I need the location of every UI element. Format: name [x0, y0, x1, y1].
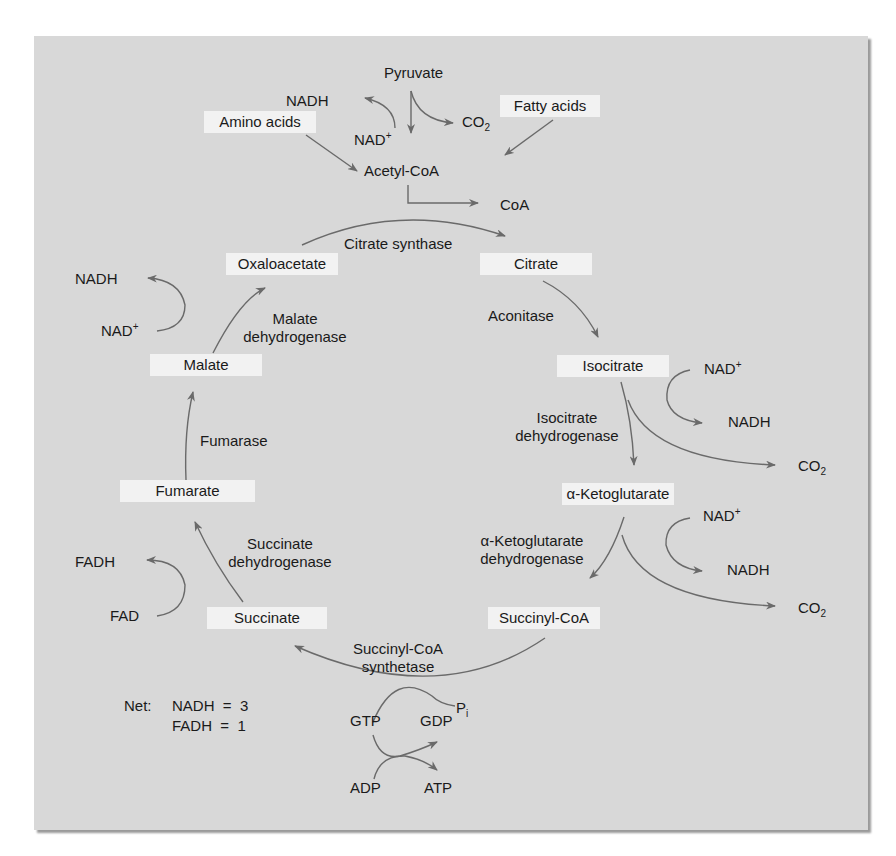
- label-gdp: GDP: [420, 712, 453, 730]
- label-co2-isocitrate: CO2: [798, 457, 826, 475]
- label-adp: ADP: [350, 779, 381, 797]
- label-citrate-synthase: Citrate synthase: [344, 235, 452, 253]
- label-fumarase: Fumarase: [200, 432, 268, 450]
- label-pyruvate: Pyruvate: [384, 64, 443, 82]
- label-nad-top: NAD+: [354, 131, 392, 149]
- box-succinyl-coa: Succinyl-CoA: [488, 607, 600, 629]
- box-fumarate: Fumarate: [120, 480, 255, 502]
- label-nad-isocitrate: NAD+: [704, 360, 742, 378]
- arrow-fattyacids: [505, 120, 553, 155]
- label-aconitase: Aconitase: [488, 307, 554, 325]
- box-fatty-acids: Fatty acids: [500, 95, 600, 117]
- amino-acids-text: Amino acids: [219, 113, 301, 130]
- arrow-pyruvate-co2: [411, 91, 453, 123]
- label-atp: ATP: [424, 779, 452, 797]
- label-nadh-top: NADH: [286, 92, 329, 110]
- box-isocitrate: Isocitrate: [557, 355, 669, 377]
- label-net-fadh: FADH = 1: [172, 717, 246, 735]
- arrow-gdp-gtp-bottom: [373, 735, 437, 757]
- arrow-nad-nadh-top: [365, 98, 395, 128]
- label-co2-akg: CO2: [798, 599, 826, 617]
- label-succinyl-coa-synthetase: Succinyl-CoAsynthetase: [338, 640, 458, 676]
- box-succinate: Succinate: [207, 607, 327, 629]
- label-malate-dehydrogenase: Malatedehydrogenase: [233, 310, 357, 346]
- label-nad-malate: NAD+: [101, 322, 139, 340]
- box-alpha-ketoglutarate: α-Ketoglutarate: [562, 483, 674, 505]
- arrow-acetylcoa-coa: [408, 185, 478, 203]
- arrow-nad-nadh-isocitrate: [667, 370, 702, 423]
- arrow-nad-nadh-malate: [148, 278, 185, 331]
- arrow-adp-atp: [374, 756, 437, 779]
- label-nadh-malate: NADH: [75, 270, 118, 288]
- fatty-acids-text: Fatty acids: [514, 97, 587, 114]
- label-pi: Pi: [456, 699, 468, 717]
- label-gtp: GTP: [350, 712, 381, 730]
- arrow-aminoacids: [306, 135, 357, 171]
- label-akg-dehydrogenase: α-Ketoglutaratedehydrogenase: [462, 532, 602, 568]
- label-coa: CoA: [500, 196, 529, 214]
- label-fad: FAD: [110, 607, 139, 625]
- arrow-fumarate-malate: [186, 392, 193, 480]
- label-isocitrate-dehydrogenase: Isocitratedehydrogenase: [502, 409, 632, 445]
- arrow-isocitrate-co2: [628, 400, 775, 465]
- label-fadh: FADH: [75, 553, 115, 571]
- box-citrate: Citrate: [480, 253, 592, 275]
- label-co2-top: CO2: [462, 113, 490, 131]
- label-nad-akg: NAD+: [703, 507, 741, 525]
- label-net: Net:: [124, 697, 152, 715]
- label-net-nadh: NADH = 3: [172, 697, 248, 715]
- box-malate: Malate: [150, 354, 262, 376]
- label-nadh-isocitrate: NADH: [728, 413, 771, 431]
- box-amino-acids: Amino acids: [204, 111, 316, 133]
- label-nadh-akg: NADH: [727, 561, 770, 579]
- arrow-fad-fadh: [147, 560, 185, 616]
- label-acetyl-coa: Acetyl-CoA: [364, 162, 439, 180]
- arrow-nad-nadh-akg: [666, 518, 702, 571]
- label-succinate-dehydrogenase: Succinatedehydrogenase: [218, 535, 342, 571]
- box-oxaloacetate: Oxaloacetate: [226, 253, 338, 275]
